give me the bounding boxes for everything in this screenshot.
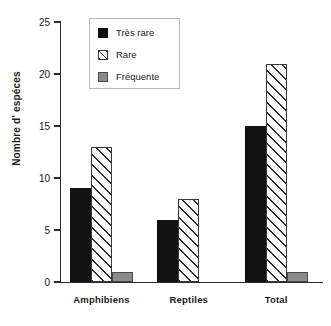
y-tick: [54, 281, 61, 282]
bar-total-series-0: [245, 126, 266, 282]
y-tick-label: 5: [10, 226, 50, 236]
y-tick-label: 25: [10, 18, 50, 28]
x-axis-label-amphibiens: Amphibiens: [52, 294, 152, 305]
bar-chart: Nombre d' espéces 0510152025 AmphibiensR…: [0, 0, 331, 326]
legend: Très rare Rare Fréquente: [89, 18, 180, 89]
x-axis-label-reptiles: Reptiles: [139, 294, 239, 305]
bar-amphibiens-series-1: [91, 147, 112, 282]
y-tick-label: 10: [10, 174, 50, 184]
bar-amphibiens-series-2: [112, 272, 133, 282]
legend-label-tres-rare: Très rare: [116, 28, 154, 38]
legend-item-rare: Rare: [98, 49, 137, 61]
y-tick: [54, 125, 61, 126]
legend-label-rare: Rare: [116, 50, 137, 60]
y-tick: [54, 73, 61, 74]
legend-label-frequente: Fréquente: [116, 72, 159, 82]
bar-reptiles-series-1: [178, 199, 199, 282]
y-tick-label: 15: [10, 122, 50, 132]
legend-swatch-tres-rare-icon: [98, 28, 108, 38]
y-tick: [54, 229, 61, 230]
legend-item-frequente: Fréquente: [98, 71, 159, 83]
bar-total-series-2: [287, 272, 308, 282]
y-tick-label: 0: [10, 278, 50, 288]
legend-swatch-rare-icon: [98, 50, 108, 60]
bar-reptiles-series-0: [157, 220, 178, 282]
y-tick: [54, 21, 61, 22]
y-tick-label: 20: [10, 70, 50, 80]
x-axis-line: [60, 282, 323, 283]
bar-amphibiens-series-0: [70, 188, 91, 282]
y-tick: [54, 177, 61, 178]
legend-swatch-frequente-icon: [98, 72, 108, 82]
bar-total-series-1: [266, 64, 287, 282]
x-axis-label-total: Total: [226, 294, 326, 305]
legend-item-tres-rare: Très rare: [98, 27, 154, 39]
